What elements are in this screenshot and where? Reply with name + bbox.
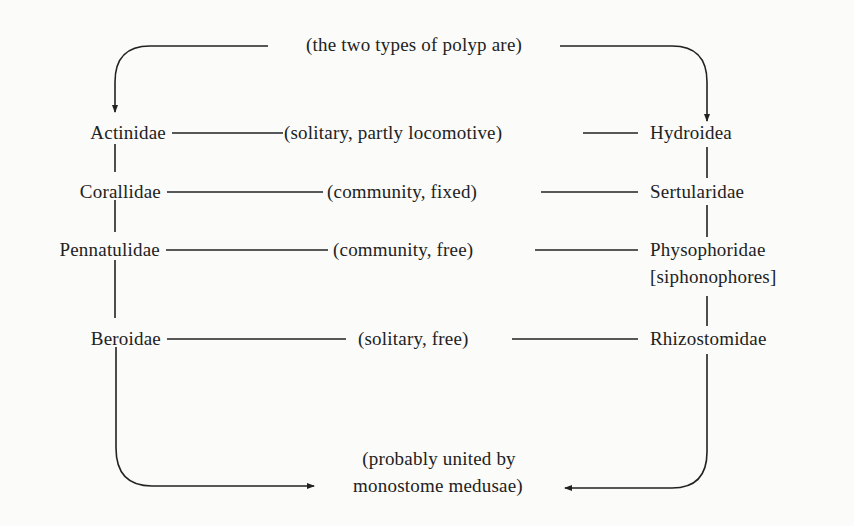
node-corallidae: Corallidae — [80, 181, 161, 203]
bottom-left-arrow — [116, 347, 314, 486]
node-rhizostomidae: Rhizostomidae — [650, 328, 767, 350]
node-actinidae: Actinidae — [90, 122, 166, 144]
relation-community-fixed: (community, fixed) — [327, 181, 477, 203]
node-hydroidea: Hydroidea — [650, 122, 732, 144]
node-physophoridae: Physophoridae — [650, 239, 766, 261]
node-beroidae: Beroidae — [91, 328, 161, 350]
relation-solitary-partly-locomotive: (solitary, partly locomotive) — [284, 122, 502, 144]
top-right-arrow — [560, 46, 707, 121]
relation-community-free: (community, free) — [333, 239, 473, 261]
top-left-arrow — [115, 46, 268, 112]
polyp-classification-diagram: (the two types of polyp are) Actinidae C… — [0, 0, 854, 526]
bottom-caption-line2: monostome medusae) — [353, 475, 523, 497]
node-siphonophores-note: [siphonophores] — [650, 266, 776, 288]
bottom-right-arrow — [565, 354, 707, 488]
relation-solitary-free: (solitary, free) — [358, 328, 469, 350]
node-pennatulidae: Pennatulidae — [59, 239, 160, 261]
node-sertularidae: Sertularidae — [650, 181, 744, 203]
bottom-caption-line1: (probably united by — [362, 448, 516, 470]
top-caption: (the two types of polyp are) — [306, 34, 522, 56]
